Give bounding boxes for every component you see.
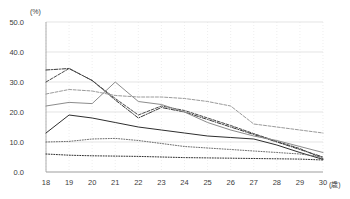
series-line-series-4-dashed-gray	[46, 90, 323, 134]
line-chart: (%) 0.010.020.030.040.050.0 181920212223…	[0, 0, 350, 199]
plot-area	[0, 0, 350, 199]
